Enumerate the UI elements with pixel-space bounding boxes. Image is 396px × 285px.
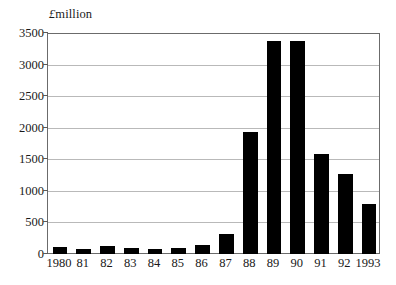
x-tick-label: 92 [338,256,351,271]
bar [148,249,163,254]
x-tick-label: 91 [314,256,327,271]
bar [53,247,68,254]
x-tick-label: 1980 [46,256,71,271]
x-axis-labels: 19808182838485868788899091921993 [47,256,380,276]
bar [267,41,282,254]
bar [195,245,210,254]
bar [290,41,305,254]
bars-layer [47,33,380,254]
y-tick-mark [43,64,48,65]
x-tick-label: 89 [267,256,280,271]
x-tick-label: 83 [124,256,137,271]
plot-area [47,33,380,254]
bar [362,204,377,254]
x-tick-label: 90 [291,256,304,271]
bar [171,248,186,254]
y-tick-label: 3000 [0,59,44,71]
y-tick-label: 3500 [0,27,44,39]
y-tick-label: 1500 [0,153,44,165]
x-tick-label: 81 [76,256,89,271]
y-tick-mark [43,95,48,96]
y-axis-unit-title: £million [49,7,92,21]
y-tick-label: 2000 [0,122,44,134]
x-tick-label: 86 [195,256,208,271]
bar-chart: £million 1980818283848586878889909192199… [0,0,396,285]
bar [243,132,258,254]
y-tick-mark [43,190,48,191]
y-tick-mark [43,32,48,33]
y-tick-mark [43,253,48,254]
bar [76,249,91,254]
bar [219,234,234,254]
y-tick-label: 0 [0,248,44,260]
x-tick-label: 87 [219,256,232,271]
bar [338,174,353,254]
unit-word: million [55,7,92,21]
x-tick-label: 88 [243,256,256,271]
x-tick-label: 82 [100,256,113,271]
y-tick-mark [43,221,48,222]
x-tick-label: 85 [172,256,185,271]
y-tick-mark [43,127,48,128]
bar [100,246,115,254]
y-tick-mark [43,158,48,159]
x-tick-label: 84 [148,256,161,271]
bar [314,154,329,254]
y-tick-label: 2500 [0,90,44,102]
y-tick-label: 500 [0,216,44,228]
y-tick-label: 1000 [0,185,44,197]
x-tick-label: 1993 [356,256,381,271]
bar [124,248,139,254]
